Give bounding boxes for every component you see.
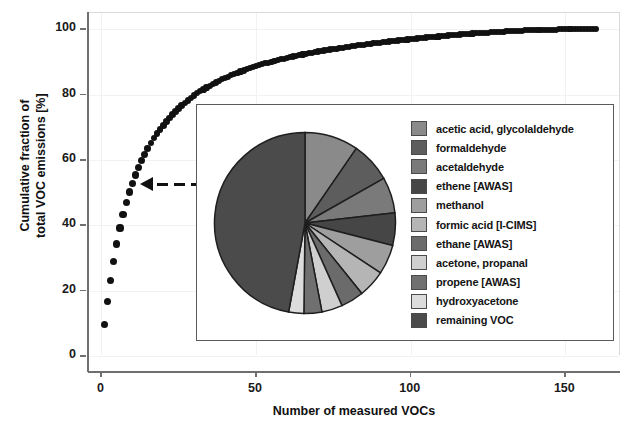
y-axis-tick (80, 355, 86, 357)
legend-label: hydroxyacetone (436, 295, 518, 307)
data-point (110, 258, 117, 265)
y-axis-title-line1: Cumulative fraction of (18, 36, 34, 296)
x-axis-title: Number of measured VOCs (88, 404, 620, 418)
legend-label: ethane [AWAS] (436, 238, 512, 250)
legend-label: remaining VOC (436, 314, 514, 326)
x-axis-tick (255, 371, 257, 377)
data-point (119, 211, 126, 218)
pie-legend: acetic acid, glycolaldehydeformaldehydea… (411, 119, 609, 330)
y-axis-line (87, 12, 89, 372)
legend-label: formaldehyde (436, 142, 506, 154)
pie-chart (213, 131, 397, 315)
x-axis-tick (410, 371, 412, 377)
legend-item: formic acid [I-CIMS] (411, 215, 609, 234)
arrow-dash-segment (174, 183, 185, 187)
data-point (129, 180, 136, 187)
data-point (132, 171, 139, 178)
legend-item: acetaldehyde (411, 157, 609, 176)
data-point (123, 199, 130, 206)
data-point (101, 321, 108, 328)
legend-label: acetone, propanal (436, 257, 528, 269)
legend-swatch (411, 121, 427, 136)
y-axis-tick (80, 159, 86, 161)
x-axis-tick-label: 0 (78, 381, 122, 395)
y-axis-tick (80, 28, 86, 30)
x-axis-tick (100, 371, 102, 377)
arrow-head-icon (140, 177, 153, 191)
y-axis-tick (80, 94, 86, 96)
legend-swatch (411, 140, 427, 155)
arrow-dash-segment (157, 183, 168, 187)
legend-item: formaldehyde (411, 138, 609, 157)
y-axis-title: Cumulative fraction of total VOC emissio… (18, 36, 49, 296)
data-point (144, 145, 151, 152)
legend-label: formic acid [I-CIMS] (436, 219, 536, 231)
legend-swatch (411, 255, 427, 270)
callout-arrow (140, 176, 198, 192)
data-point (104, 298, 111, 305)
legend-label: acetic acid, glycolaldehyde (436, 123, 574, 135)
figure-canvas: 020406080100 050100150 Number of measure… (0, 0, 635, 425)
legend-item: acetic acid, glycolaldehyde (411, 119, 609, 138)
legend-label: propene [AWAS] (436, 276, 520, 288)
legend-swatch (411, 236, 427, 251)
legend-swatch (411, 179, 427, 194)
legend-item: methanol (411, 196, 609, 215)
legend-item: hydroxyacetone (411, 292, 609, 311)
legend-label: ethene [AWAS] (436, 180, 512, 192)
legend-item: ethene [AWAS] (411, 177, 609, 196)
data-point (116, 224, 123, 231)
y-axis-tick (80, 224, 86, 226)
legend-swatch (411, 159, 427, 174)
legend-label: acetaldehyde (436, 161, 504, 173)
data-point (113, 240, 120, 247)
legend-item: remaining VOC (411, 311, 609, 330)
legend-item: propene [AWAS] (411, 273, 609, 292)
legend-swatch (411, 313, 427, 328)
legend-item: acetone, propanal (411, 253, 609, 272)
legend-swatch (411, 294, 427, 309)
gridline-horizontal (89, 356, 619, 357)
legend-label: methanol (436, 199, 484, 211)
y-axis-tick-label: 0 (38, 347, 76, 361)
legend-item: ethane [AWAS] (411, 234, 609, 253)
legend-swatch (411, 198, 427, 213)
data-point (593, 26, 599, 32)
legend-swatch (411, 275, 427, 290)
x-axis-tick-label: 150 (542, 381, 586, 395)
x-axis-tick-label: 100 (388, 381, 432, 395)
y-axis-tick-label: 100 (38, 20, 76, 34)
inset-panel: acetic acid, glycolaldehydeformaldehydea… (196, 104, 614, 341)
data-point (107, 277, 114, 284)
legend-swatch (411, 217, 427, 232)
x-axis-tick (564, 371, 566, 377)
pie-chart-container (205, 113, 405, 333)
x-axis-tick-label: 50 (233, 381, 277, 395)
y-axis-title-line2: total VOC emissions [%] (34, 36, 50, 296)
data-point (138, 157, 145, 164)
y-axis-tick (80, 290, 86, 292)
data-point (126, 188, 133, 195)
data-point (141, 151, 148, 158)
x-axis-line (88, 371, 620, 373)
data-point (135, 164, 142, 171)
pie-slice (214, 132, 305, 312)
